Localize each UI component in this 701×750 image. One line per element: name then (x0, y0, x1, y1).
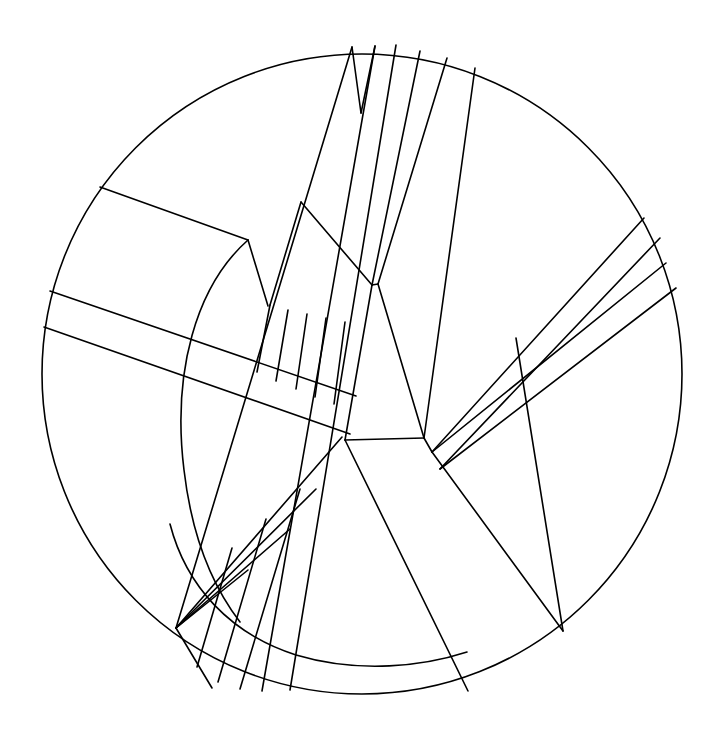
central-hub-group-segment-2 (372, 284, 378, 285)
geometric-circle-figure (0, 0, 701, 750)
drawing-canvas (0, 0, 701, 750)
paper-background (0, 0, 701, 750)
